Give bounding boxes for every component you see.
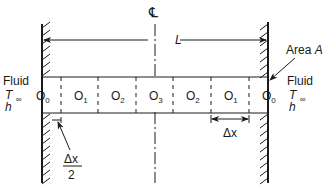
left-heat-transfer-coefficient: h (5, 100, 12, 114)
centerline-symbol: ℄ (148, 4, 158, 20)
right-wall (260, 22, 268, 184)
node-label: O0 (262, 89, 276, 105)
node-label: O2 (186, 89, 200, 105)
right-fluid-label: Fluid (287, 74, 313, 88)
node-label: O0 (36, 89, 50, 105)
half-dx-dimension: Δx 2 (52, 117, 82, 182)
length-label: L (175, 33, 182, 47)
dx-dimension: Δx (211, 115, 249, 140)
half-dx-denominator: 2 (68, 168, 75, 182)
right-fluid-conditions: Fluid T ∞ h (287, 74, 313, 114)
node-label: O3 (149, 89, 163, 105)
dx-label: Δx (223, 126, 237, 140)
node-label: O1 (224, 89, 238, 105)
node-label: O1 (74, 89, 88, 105)
node-labels: O0 O1 O2 O3 O2 O1 O0 (36, 89, 276, 105)
area-label: Area A (286, 43, 323, 57)
left-fluid-conditions: Fluid T ∞ h (3, 74, 29, 114)
discretized-rod-diagram: ℄ L Area A Fluid T ∞ h Fluid T ∞ h O0 O1… (0, 0, 327, 187)
node-label: O2 (111, 89, 125, 105)
half-dx-numerator: Δx (64, 152, 78, 166)
left-fluid-label: Fluid (3, 74, 29, 88)
right-heat-transfer-coefficient: h (289, 100, 296, 114)
